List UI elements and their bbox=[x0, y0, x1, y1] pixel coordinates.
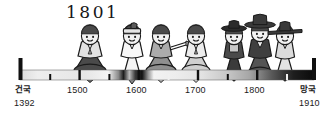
axis-end-cap-left bbox=[19, 58, 23, 80]
axis-tick-label-1800: 1800 bbox=[244, 86, 265, 95]
figure-6-man-gat-1800 bbox=[245, 14, 276, 78]
axis-tick-label-1600: 1600 bbox=[126, 86, 147, 95]
axis-tick-label-1700: 1700 bbox=[185, 86, 206, 95]
axis-start-year-1392: 1392 bbox=[14, 99, 35, 108]
axis-start-label-founding: 건국 bbox=[15, 85, 31, 94]
year-annotation-1801: 1801 bbox=[66, 4, 119, 21]
axis-end-cap-right bbox=[312, 58, 316, 80]
axis-tick-label-1500: 1500 bbox=[67, 86, 88, 95]
timeline-illustration bbox=[0, 0, 335, 114]
timeline-gradient-bar bbox=[20, 70, 314, 80]
axis-end-year-1910: 1910 bbox=[299, 99, 320, 108]
axis-end-label-fall: 망국 bbox=[300, 85, 316, 94]
timeline-canvas bbox=[0, 0, 335, 114]
